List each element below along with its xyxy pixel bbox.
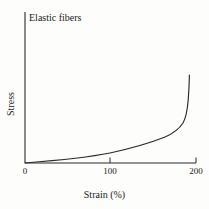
stress-strain-figure: Elastic fibers Stress 0 100 200 Strain (… [0, 0, 209, 209]
stress-strain-curve [25, 75, 189, 163]
x-tick-label-0: 0 [14, 166, 36, 177]
x-tick-label-100: 100 [99, 166, 121, 177]
x-tick-label-200: 200 [185, 166, 207, 177]
chart-canvas [0, 0, 209, 209]
x-axis-label: Strain (%) [0, 188, 209, 201]
